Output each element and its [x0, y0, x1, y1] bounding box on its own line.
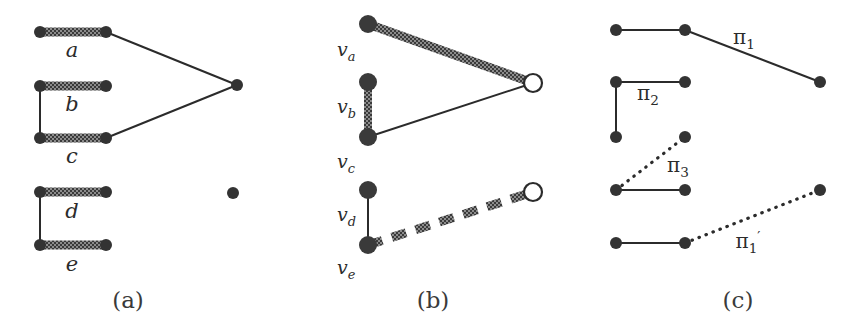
label-v-b: vb — [337, 95, 356, 121]
node-b-left — [34, 80, 46, 92]
node-c-r5-left — [610, 237, 622, 249]
node-v-a — [359, 15, 377, 33]
node-hub-top — [524, 74, 542, 92]
edge-ve-hub — [368, 192, 533, 245]
node-v-c — [359, 128, 377, 146]
node-e-right — [100, 239, 112, 251]
node-apex — [231, 79, 243, 91]
node-c-r3-right — [679, 131, 691, 143]
node-a-right — [100, 26, 112, 38]
caption-c: (c) — [723, 287, 754, 313]
caption-b: (b) — [417, 287, 450, 313]
edge-vc-hub — [368, 83, 533, 137]
figure-canvas: a b c d e (a) va — [0, 0, 843, 332]
edge-c-pi1prime — [685, 190, 820, 243]
label-edge-e: e — [66, 252, 78, 276]
node-c-r4-right — [679, 184, 691, 196]
panel-b: va vb vc vd ve (b) — [337, 15, 542, 313]
node-isolated — [227, 187, 239, 199]
caption-a: (a) — [112, 287, 144, 313]
edge-a-apex — [106, 32, 237, 85]
node-v-d — [359, 181, 377, 199]
node-c-left — [34, 132, 46, 144]
panel-a: a b c d e (a) — [34, 26, 243, 313]
label-edge-a: a — [66, 38, 79, 62]
node-c-r1-right — [814, 76, 826, 88]
label-v-d: vd — [337, 203, 356, 229]
figure-root: a b c d e (a) va — [0, 0, 843, 332]
label-pi3: π3 — [667, 153, 689, 180]
node-c-r3-left — [610, 131, 622, 143]
node-c-right — [100, 132, 112, 144]
node-e-left — [34, 239, 46, 251]
edge-c-apex — [106, 85, 237, 138]
label-pi2: π2 — [637, 81, 659, 108]
label-v-e: ve — [337, 256, 356, 282]
node-hub-bottom — [524, 183, 542, 201]
label-v-a: va — [337, 38, 355, 64]
node-c-r1-left — [610, 24, 622, 36]
label-pi1-prime: π1′ — [736, 228, 761, 256]
panel-c: π1 π2 π3 π1′ (c) — [610, 24, 826, 313]
node-d-right — [100, 186, 112, 198]
edge-va-hub — [368, 24, 533, 83]
node-c-r5-right — [814, 184, 826, 196]
node-c-r4-left — [610, 184, 622, 196]
node-c-r2-left — [610, 76, 622, 88]
node-c-r2-right — [679, 76, 691, 88]
node-d-left — [34, 186, 46, 198]
node-c-r1-mid — [679, 24, 691, 36]
node-a-left — [34, 26, 46, 38]
label-edge-c: c — [66, 144, 78, 168]
label-edge-b: b — [65, 92, 78, 116]
node-b-right — [100, 80, 112, 92]
node-v-e — [359, 236, 377, 254]
label-edge-d: d — [65, 199, 78, 223]
label-pi1: π1 — [733, 25, 755, 52]
node-c-r5-mid — [679, 237, 691, 249]
node-v-b — [359, 73, 377, 91]
label-v-c: vc — [337, 150, 355, 176]
